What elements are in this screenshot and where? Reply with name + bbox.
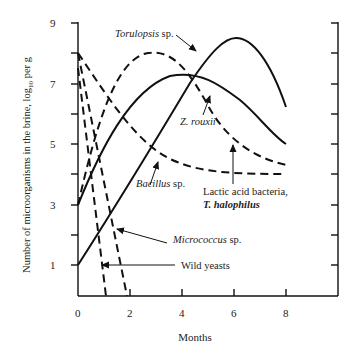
y-tick-7: 7 [50, 78, 56, 90]
label-z-rouxii: Z. rouxii [180, 116, 216, 127]
series-wild-yeasts [78, 68, 106, 296]
x-tick-2: 2 [127, 307, 133, 319]
chart: 9 7 5 3 1 0 2 4 6 8 Months Number of mic… [0, 0, 354, 357]
y-tick-1: 1 [50, 259, 56, 271]
series-torulopsis [78, 38, 286, 265]
arrow-micrococcus [117, 229, 167, 243]
y-tick-5: 5 [50, 138, 56, 150]
x-axis-title: Months [178, 331, 212, 343]
x-tick-8: 8 [283, 307, 289, 319]
label-torulopsis: Torulopsis sp. [115, 28, 174, 39]
label-wild-yeasts: Wild yeasts [181, 260, 230, 271]
label-micrococcus: Micrococcus sp. [172, 234, 241, 245]
x-tick-0: 0 [75, 307, 81, 319]
label-bacillus: Bacillus sp. [136, 178, 185, 189]
label-lactic-acid-bacteria: Lactic acid bacteria, [203, 186, 288, 197]
y-tick-9: 9 [50, 17, 56, 29]
x-tick-6: 6 [231, 307, 237, 319]
y-axis-title: Number of microorganisms in the brine, l… [21, 56, 35, 273]
label-t-halophilus: T. halophilus [203, 199, 260, 210]
arrow-torulopsis [176, 35, 196, 51]
y-tick-3: 3 [50, 199, 56, 211]
x-tick-4: 4 [179, 307, 185, 319]
